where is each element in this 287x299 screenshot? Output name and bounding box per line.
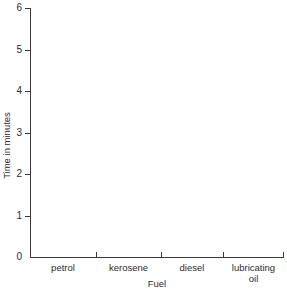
bar-chart: 6 5 4 3 2 1 0 petrol kerosene diesel lub… xyxy=(0,0,287,299)
y-axis-tick-label: 0 xyxy=(0,252,22,262)
y-axis-title: Time in minutes xyxy=(1,86,12,206)
y-axis-tick-label: 1 xyxy=(0,211,22,221)
x-axis-category-text: petrol xyxy=(30,262,96,273)
x-axis-tick xyxy=(161,252,162,258)
x-axis-category-label-kerosene: kerosene xyxy=(96,262,161,273)
x-axis-category-label-petrol: petrol xyxy=(30,262,96,273)
x-axis-category-label-diesel: diesel xyxy=(161,262,223,273)
y-axis-tick xyxy=(25,50,30,51)
x-axis-title: Fuel xyxy=(30,278,284,289)
x-axis-tick xyxy=(30,252,31,258)
y-axis-line xyxy=(30,8,31,258)
x-axis-category-text: kerosene xyxy=(96,262,161,273)
x-axis-tick xyxy=(96,252,97,258)
y-axis-tick xyxy=(25,133,30,134)
y-axis-tick-label: 6 xyxy=(0,3,22,13)
x-axis-line xyxy=(30,257,284,258)
y-axis-tick xyxy=(25,8,30,9)
x-axis-tick xyxy=(283,252,284,258)
y-axis-tick xyxy=(25,174,30,175)
y-axis-tick-label: 5 xyxy=(0,45,22,55)
plot-area xyxy=(31,8,284,257)
x-axis-category-text: diesel xyxy=(161,262,223,273)
y-axis-tick xyxy=(25,91,30,92)
x-axis-tick xyxy=(223,252,224,258)
y-axis-tick xyxy=(25,216,30,217)
x-axis-category-text: lubricating xyxy=(223,262,284,273)
